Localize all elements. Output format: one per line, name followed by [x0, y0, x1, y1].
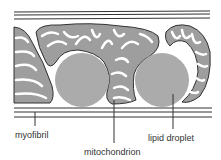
label-lipid-droplet: lipid droplet	[148, 133, 194, 143]
top-myofibril	[14, 11, 210, 19]
lipid-droplet-right	[135, 53, 189, 107]
label-myofibril: myofibril	[15, 130, 49, 140]
label-mitochondrion: mitochondrion	[84, 147, 141, 157]
bottom-myofibril	[14, 108, 212, 117]
lipid-droplet-left	[55, 53, 109, 107]
